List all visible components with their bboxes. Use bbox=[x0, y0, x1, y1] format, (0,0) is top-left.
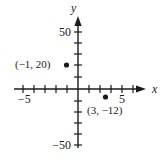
y-axis-label: y bbox=[71, 2, 76, 14]
y-axis bbox=[74, 16, 81, 148]
data-points bbox=[64, 62, 108, 99]
coordinate-plane-figure: y x 50 −50 −5 5 (−1, 20) (3, −12) bbox=[0, 0, 168, 160]
x-axis-arrowhead bbox=[136, 85, 146, 92]
x-axis-label: x bbox=[152, 83, 157, 95]
point-label-2: (3, −12) bbox=[87, 105, 123, 116]
point-label-1: (−1, 20) bbox=[15, 59, 51, 70]
data-point-1 bbox=[64, 62, 69, 67]
y-tick-label-50: 50 bbox=[49, 26, 71, 38]
y-tick-label-neg50: −50 bbox=[45, 139, 71, 151]
data-point-2 bbox=[103, 94, 108, 99]
plot-svg bbox=[0, 0, 168, 160]
y-axis-arrowhead bbox=[74, 16, 81, 26]
x-tick-label-neg5: −5 bbox=[18, 93, 31, 105]
